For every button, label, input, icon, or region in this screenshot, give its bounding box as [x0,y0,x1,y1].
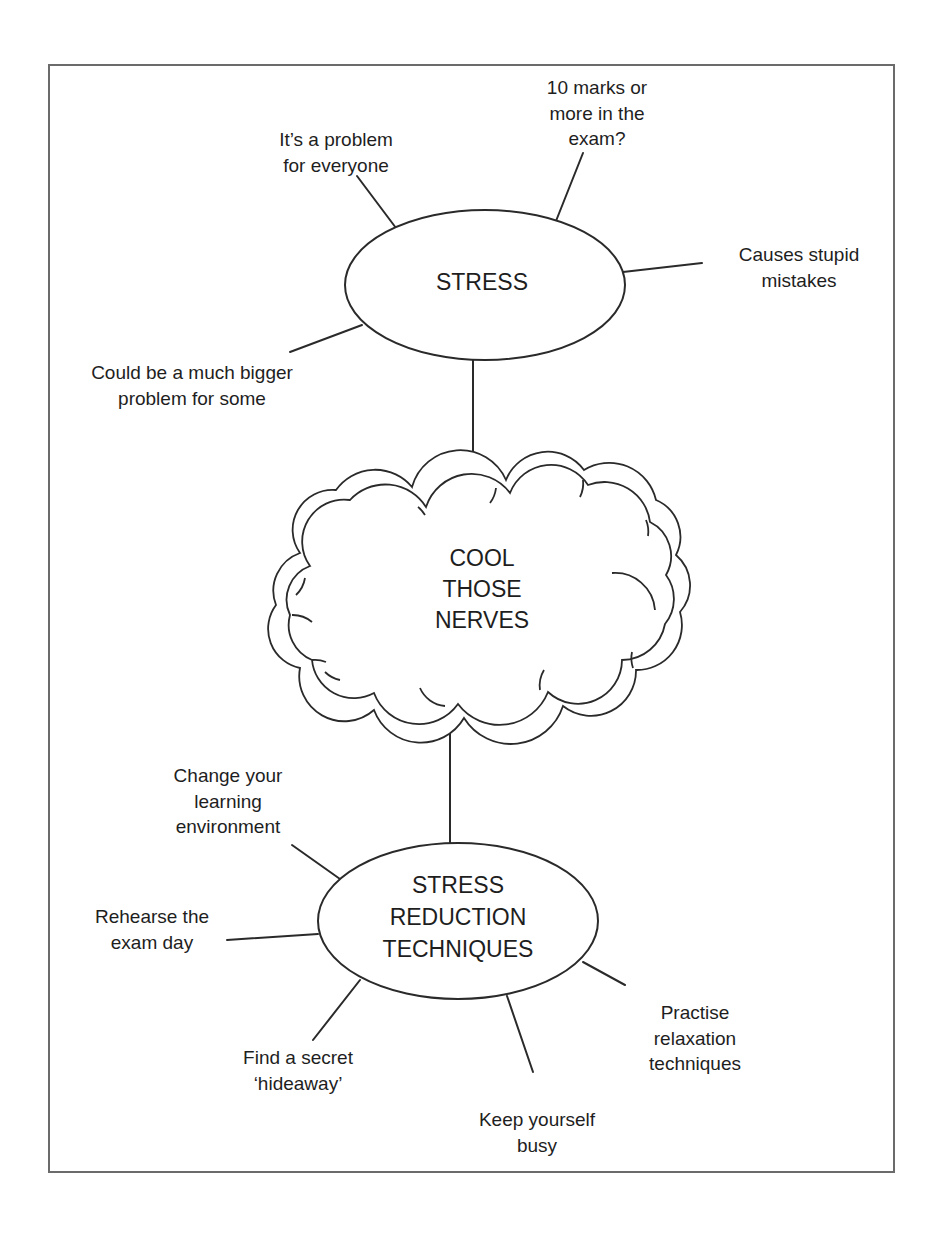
connector-ten-marks [556,153,583,221]
branch-text-line: exam? [547,126,647,152]
branch-text-line: Keep yourself [479,1107,595,1133]
connector-relaxation [583,962,625,985]
branch-text-line: for everyone [279,153,393,179]
connector-stupid-mistakes [623,263,702,272]
branch-stupid-mistakes: Causes stupid mistakes [739,242,859,293]
cloud-text-line-1: COOL [435,543,529,574]
cloud-text-line-3: NERVES [435,605,529,636]
branch-relaxation: Practise relaxation techniques [649,1000,741,1077]
branch-text-line: exam day [95,930,209,956]
branch-text-line: Change your [174,763,283,789]
cloud-text-line-2: THOSE [435,574,529,605]
connector-bigger-problem [290,325,362,352]
branch-text-line: problem for some [91,386,293,412]
techniques-text-line-2: REDUCTION [383,901,534,933]
branch-bigger-problem: Could be a much bigger problem for some [91,360,293,411]
connector-keep-busy [507,996,533,1072]
branch-text-line: environment [174,814,283,840]
branch-problem-everyone: It’s a problem for everyone [279,127,393,178]
connector-secret-hideaway [313,980,360,1040]
branch-text-line: Practise [649,1000,741,1026]
cool-those-nerves-label: COOL THOSE NERVES [435,543,529,636]
branch-text-line: Find a secret [243,1045,353,1071]
branch-text-line: busy [479,1133,595,1159]
connector-problem-everyone [357,176,396,228]
branch-secret-hideaway: Find a secret ‘hideaway’ [243,1045,353,1096]
branch-learning-environment: Change your learning environment [174,763,283,840]
techniques-text-line-1: STRESS [383,869,534,901]
branch-ten-marks: 10 marks or more in the exam? [547,75,647,152]
branch-rehearse-exam: Rehearse the exam day [95,904,209,955]
branch-text-line: Rehearse the [95,904,209,930]
branch-keep-busy: Keep yourself busy [479,1107,595,1158]
branch-text-line: relaxation [649,1026,741,1052]
branch-text-line: Causes stupid [739,242,859,268]
techniques-text-line-3: TECHNIQUES [383,933,534,965]
branch-text-line: ‘hideaway’ [243,1071,353,1097]
branch-text-line: Could be a much bigger [91,360,293,386]
branch-text-line: It’s a problem [279,127,393,153]
branch-text-line: more in the [547,101,647,127]
branch-text-line: mistakes [739,268,859,294]
branch-text-line: techniques [649,1051,741,1077]
branch-text-line: learning [174,789,283,815]
stress-node-text: STRESS [436,268,528,296]
connector-learning-environment [292,845,340,879]
stress-node-label: STRESS [436,268,528,296]
branch-text-line: 10 marks or [547,75,647,101]
stress-reduction-techniques-label: STRESS REDUCTION TECHNIQUES [383,869,534,965]
connector-rehearse-exam [227,934,318,940]
